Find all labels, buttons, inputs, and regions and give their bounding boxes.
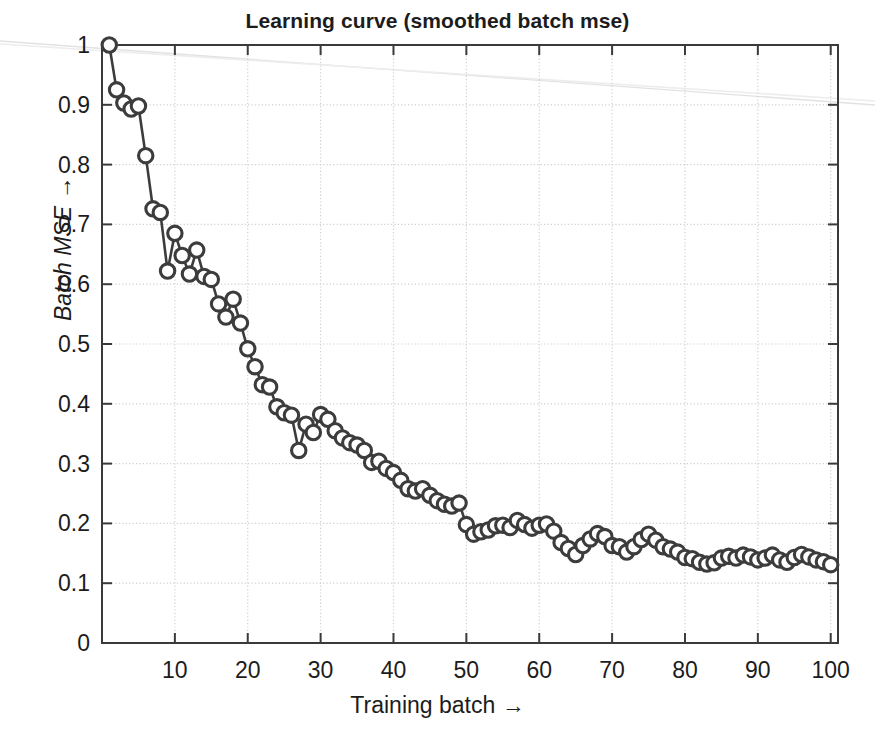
y-tick-label: 0.8	[6, 151, 90, 178]
y-tick-label: 0	[6, 630, 90, 657]
y-tick-label: 0.5	[6, 331, 90, 358]
x-tick-label: 10	[162, 657, 188, 684]
x-tick-label: 50	[454, 657, 480, 684]
x-tick-label: 90	[745, 657, 771, 684]
x-tick-label: 30	[308, 657, 334, 684]
y-tick-label: 0.3	[6, 450, 90, 477]
x-tick-label: 70	[599, 657, 625, 684]
x-tick-label: 80	[672, 657, 698, 684]
y-tick-label: 0.4	[6, 390, 90, 417]
y-axis-title: Batch MSE →	[50, 177, 77, 321]
y-tick-label: 1	[6, 32, 90, 59]
x-axis-title: Training batch →	[0, 692, 875, 719]
x-tick-label: 60	[526, 657, 552, 684]
plot-area: 00.10.20.30.40.50.60.70.80.91 1020304050…	[102, 45, 838, 643]
x-tick-label: 100	[812, 657, 850, 684]
x-tick-label: 20	[235, 657, 261, 684]
y-tick-label: 0.6	[6, 271, 90, 298]
y-tick-label: 0.1	[6, 570, 90, 597]
y-tick-label: 0.7	[6, 211, 90, 238]
x-tick-label: 40	[381, 657, 407, 684]
figure-container: Learning curve (smoothed batch mse) 00.1…	[0, 0, 875, 738]
y-tick-label: 0.2	[6, 510, 90, 537]
y-tick-label: 0.9	[6, 91, 90, 118]
